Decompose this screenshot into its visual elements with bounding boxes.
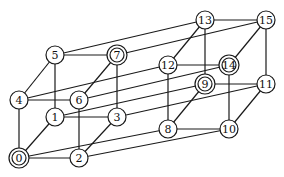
node-15: 15 (257, 11, 275, 29)
node-8: 8 (159, 120, 177, 138)
node-label: 14 (222, 59, 236, 72)
node-0: 0 (9, 148, 29, 168)
node-9: 9 (195, 74, 215, 94)
node-label: 15 (259, 14, 273, 27)
node-2: 2 (70, 149, 88, 167)
node-14: 14 (219, 55, 239, 75)
node-5: 5 (46, 46, 64, 64)
hypercube-diagram: 0123456789101112131415 (0, 0, 284, 177)
node-1: 1 (46, 108, 64, 126)
edge-4-12 (19, 65, 168, 100)
node-label: 3 (114, 111, 121, 124)
node-label: 8 (165, 123, 172, 136)
node-label: 13 (198, 14, 212, 27)
edge-7-15 (117, 20, 266, 55)
node-label: 10 (222, 123, 236, 136)
node-label: 2 (76, 152, 83, 165)
node-6: 6 (70, 91, 88, 109)
node-13: 13 (196, 11, 214, 29)
node-label: 6 (76, 94, 83, 107)
node-7: 7 (107, 45, 127, 65)
node-11: 11 (257, 75, 275, 93)
node-label: 1 (52, 111, 59, 124)
edge-5-13 (55, 20, 205, 55)
node-label: 12 (161, 59, 175, 72)
node-label: 5 (52, 49, 59, 62)
node-label: 0 (16, 152, 23, 165)
node-10: 10 (220, 120, 238, 138)
node-4: 4 (10, 91, 28, 109)
node-3: 3 (108, 108, 126, 126)
node-12: 12 (159, 56, 177, 74)
node-label: 9 (202, 78, 209, 91)
node-label: 7 (114, 49, 121, 62)
node-label: 4 (16, 94, 23, 107)
node-label: 11 (259, 78, 273, 91)
hypercube-graph: 0123456789101112131415 (0, 0, 284, 177)
